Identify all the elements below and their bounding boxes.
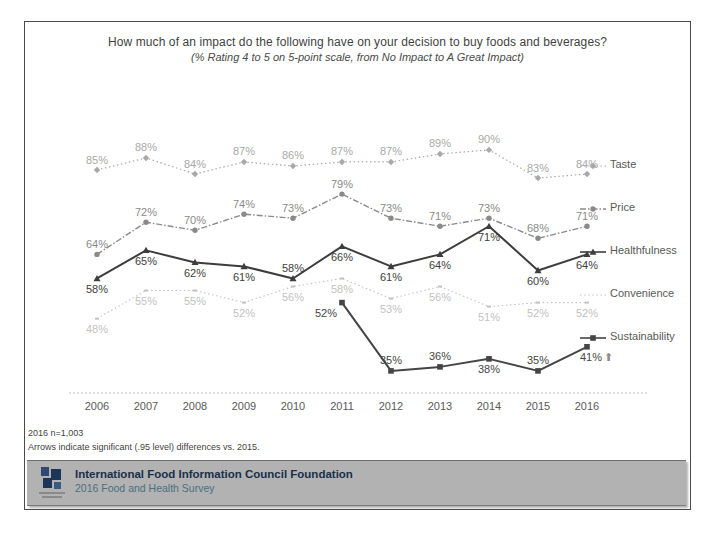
svg-text:62%: 62%	[184, 267, 206, 279]
svg-text:79%: 79%	[331, 178, 353, 190]
legend-item-price: Price	[579, 196, 689, 217]
taste-line-swatch	[579, 158, 607, 170]
legend-item-convenience: Convenience	[579, 282, 689, 303]
legend-item-sustainability: Sustainability	[579, 325, 689, 346]
svg-text:84%: 84%	[184, 158, 206, 170]
svg-text:71%: 71%	[478, 231, 500, 243]
svg-text:64%: 64%	[86, 238, 108, 250]
svg-text:2016: 2016	[575, 400, 599, 412]
survey-slide: How much of an impact do the following h…	[24, 21, 691, 510]
svg-text:66%: 66%	[331, 251, 353, 263]
significance-note: Arrows indicate significant (.95 level) …	[28, 440, 259, 454]
svg-text:38%: 38%	[478, 363, 500, 375]
svg-text:2009: 2009	[232, 400, 256, 412]
svg-text:2008: 2008	[183, 400, 207, 412]
sample-size-note: 2016 n=1,003	[28, 426, 259, 440]
svg-text:2007: 2007	[134, 400, 158, 412]
svg-text:89%: 89%	[429, 137, 451, 149]
svg-text:35%: 35%	[380, 354, 402, 366]
svg-text:2006: 2006	[85, 400, 109, 412]
svg-text:52%: 52%	[527, 307, 549, 319]
svg-text:2012: 2012	[379, 400, 403, 412]
svg-text:56%: 56%	[429, 291, 451, 303]
svg-text:55%: 55%	[135, 295, 157, 307]
healthfulness-line-swatch	[579, 244, 607, 256]
svg-text:61%: 61%	[233, 271, 255, 283]
svg-text:73%: 73%	[282, 202, 304, 214]
svg-text:85%: 85%	[86, 154, 108, 166]
svg-text:53%: 53%	[380, 303, 402, 315]
legend-label: Taste	[610, 158, 636, 170]
svg-text:86%: 86%	[282, 149, 304, 161]
svg-text:88%: 88%	[135, 141, 157, 153]
svg-text:56%: 56%	[282, 291, 304, 303]
footer-bar: International Food Information Council F…	[27, 460, 686, 506]
svg-text:87%: 87%	[331, 145, 353, 157]
svg-text:73%: 73%	[380, 202, 402, 214]
svg-text:52%: 52%	[233, 307, 255, 319]
svg-text:2013: 2013	[428, 400, 452, 412]
svg-text:41%: 41%	[580, 351, 602, 363]
svg-text:35%: 35%	[527, 354, 549, 366]
footer-survey-name: 2016 Food and Health Survey	[75, 482, 353, 494]
svg-text:55%: 55%	[184, 295, 206, 307]
legend-item-healthfulness: Healthfulness	[579, 239, 689, 260]
svg-text:87%: 87%	[380, 145, 402, 157]
svg-text:58%: 58%	[282, 262, 304, 274]
legend-label: Sustainability	[610, 330, 675, 342]
svg-text:74%: 74%	[233, 198, 255, 210]
svg-text:61%: 61%	[380, 271, 402, 283]
svg-text:2010: 2010	[281, 400, 305, 412]
svg-text:64%: 64%	[429, 259, 451, 271]
convenience-line-swatch	[579, 287, 607, 299]
svg-text:87%: 87%	[233, 145, 255, 157]
svg-text:83%: 83%	[527, 162, 549, 174]
chart-legend: Taste Price Healthfulness Convenience Su…	[579, 153, 689, 346]
footer-organization: International Food Information Council F…	[75, 468, 353, 480]
svg-text:2011: 2011	[330, 400, 354, 412]
legend-item-taste: Taste	[579, 153, 689, 174]
svg-text:58%: 58%	[331, 283, 353, 295]
svg-text:73%: 73%	[478, 202, 500, 214]
svg-text:2015: 2015	[526, 400, 550, 412]
svg-text:71%: 71%	[429, 210, 451, 222]
svg-text:⬆: ⬆	[604, 351, 613, 363]
sustainability-line-swatch	[579, 330, 607, 342]
svg-text:58%: 58%	[86, 283, 108, 295]
legend-label: Convenience	[610, 287, 674, 299]
svg-text:48%: 48%	[86, 323, 108, 335]
svg-text:52%: 52%	[315, 307, 337, 319]
svg-text:90%: 90%	[478, 133, 500, 145]
svg-text:51%: 51%	[478, 311, 500, 323]
ific-logo-icon	[39, 467, 67, 501]
svg-text:60%: 60%	[527, 275, 549, 287]
svg-text:65%: 65%	[135, 255, 157, 267]
svg-text:72%: 72%	[135, 206, 157, 218]
svg-text:68%: 68%	[527, 222, 549, 234]
legend-label: Price	[610, 201, 635, 213]
footnotes: 2016 n=1,003 Arrows indicate significant…	[28, 426, 259, 454]
svg-text:2014: 2014	[477, 400, 501, 412]
legend-label: Healthfulness	[610, 244, 677, 256]
svg-text:70%: 70%	[184, 214, 206, 226]
svg-text:36%: 36%	[429, 350, 451, 362]
price-line-swatch	[579, 201, 607, 213]
